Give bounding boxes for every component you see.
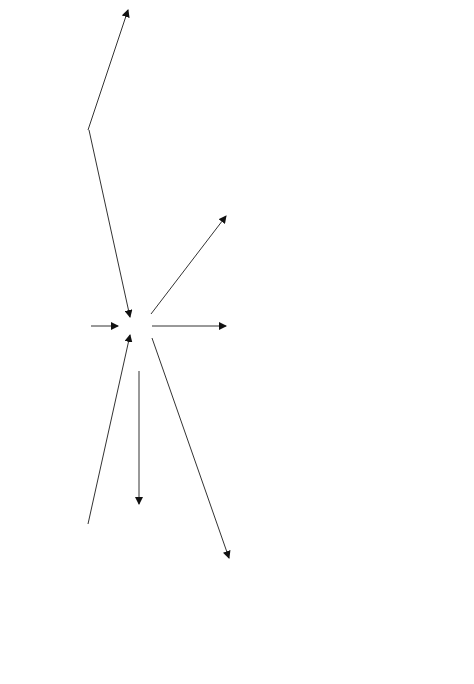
diagram-canvas: [0, 0, 474, 684]
arrow-connectors: [0, 0, 474, 684]
